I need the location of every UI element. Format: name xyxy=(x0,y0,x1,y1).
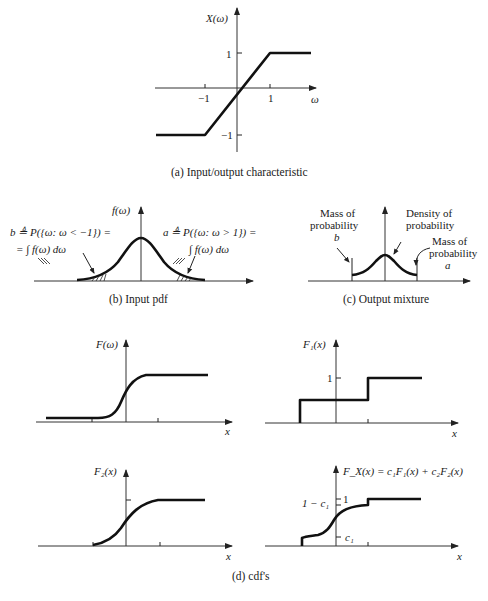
mass-a-label-1: Mass of xyxy=(432,235,467,247)
mass-b-label-1: Mass of xyxy=(320,207,355,219)
annotation-a-line1: a ≜ P({ω: ω > 1}) = xyxy=(163,226,256,239)
arrow-mass-b xyxy=(337,248,349,262)
x-axis-label: ω xyxy=(311,93,319,105)
caption-c: (c) Output mixture xyxy=(343,293,429,306)
y-axis-label: X(ω) xyxy=(205,12,228,25)
hatch-mark-right xyxy=(173,258,185,264)
x-axis-label: x xyxy=(456,550,462,562)
mass-a-label-3: a xyxy=(445,259,451,271)
cdf-curve xyxy=(93,500,205,545)
tick-label-1: 1 xyxy=(343,493,349,505)
y-axis-label: f(ω) xyxy=(112,204,130,217)
annotation-a-line2: ∫ f(ω) dω xyxy=(188,243,229,256)
tick-label-c1: c₁ xyxy=(345,531,354,543)
arrow-mass-a xyxy=(416,248,430,265)
panel-a-input-output-characteristic: X(ω) −1 1 1 −1 ω (a) Input/output charac… xyxy=(155,8,319,179)
plot-F-omega: F(ω) x xyxy=(36,338,232,437)
mass-b-label-2: probability xyxy=(310,219,359,231)
arrow-right xyxy=(188,256,195,273)
tick-label-y-neg: −1 xyxy=(221,129,233,141)
density-label-1: Density of xyxy=(406,207,452,219)
x-axis-label: x xyxy=(225,550,231,562)
y-axis-label: F₁(x) xyxy=(302,338,326,351)
caption-d: (d) cdf's xyxy=(232,570,270,583)
mass-b-label-3: b xyxy=(334,231,340,243)
y-axis-label: F₂(x) xyxy=(93,465,117,478)
tick-label-y-pos: 1 xyxy=(226,48,232,60)
density-label-2: probability xyxy=(406,219,455,231)
tick-label-1-minus-c1: 1 − c₁ xyxy=(302,497,329,509)
limiter-curve xyxy=(156,53,311,135)
plot-FX-mixture: F_X(x) = c₁F₁(x) + c₂F₂(x) 1 − c₁ 1 c₁ x xyxy=(265,465,463,562)
tick-label-x-neg: −1 xyxy=(198,92,210,104)
caption-a: (a) Input/output characteristic xyxy=(171,166,308,179)
hatch-mark-left xyxy=(38,258,50,264)
step-cdf xyxy=(300,378,422,423)
annotation-b-line1: b ≜ P({ω: ω < −1}) = xyxy=(10,226,111,239)
tick-label-1: 1 xyxy=(327,372,333,384)
y-axis-label: F_X(x) = c₁F₁(x) + c₂F₂(x) xyxy=(342,465,463,478)
panel-b-input-pdf: f(ω) b ≜ P({ω: ω < −1}) = = ∫ f(ω) dω a … xyxy=(10,204,256,306)
figure-canvas: X(ω) −1 1 1 −1 ω (a) Input/output charac… xyxy=(0,0,488,601)
caption-b: (b) Input pdf xyxy=(109,293,168,306)
mass-a-label-2: probability xyxy=(429,247,478,259)
cdf-curve xyxy=(46,375,208,418)
plot-F1: F₁(x) 1 x xyxy=(265,338,458,439)
annotation-b-line2: = ∫ f(ω) dω xyxy=(16,243,66,256)
y-axis-label: F(ω) xyxy=(95,338,118,351)
panel-c-output-mixture: Mass of probability b Density of probabi… xyxy=(308,207,478,306)
x-axis-label: x xyxy=(224,425,230,437)
x-axis-label: x xyxy=(451,427,457,439)
plot-F2: F₂(x) x xyxy=(38,465,232,562)
tick-label-x-pos: 1 xyxy=(268,92,274,104)
arrow-left xyxy=(83,253,94,273)
arrow-density xyxy=(394,242,401,254)
